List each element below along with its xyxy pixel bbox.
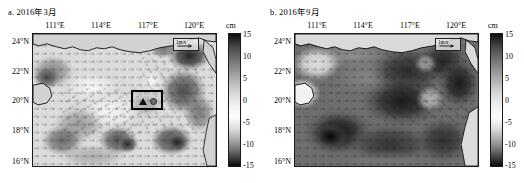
cbar-tick-n10-b: -10	[505, 140, 516, 149]
panel-a-colorbar-gradient	[228, 33, 241, 167]
panel-a-colorbar-unit: cm	[226, 21, 236, 30]
panel-b-map-area: 1m/s	[294, 33, 479, 167]
lon-tick-label-114e: 114°E	[91, 21, 111, 30]
lat-tick-label-18n-b: 18°N	[274, 126, 291, 135]
panel-a-lat-axis-labels: 24°N 22°N 20°N 18°N 16°N	[0, 33, 31, 167]
panel-b-title: b. 2016年9月	[270, 5, 320, 17]
panel-b-colorbar-unit: cm	[488, 21, 498, 30]
panel-b-colorbar-gradient	[490, 33, 503, 167]
vector-scale-arrow-icon-b	[439, 44, 457, 48]
lon-tick-label-120e: 120°E	[184, 21, 204, 30]
cbar-tick-10-b: 10	[505, 52, 513, 61]
cbar-tick-10: 10	[243, 52, 251, 61]
panel-b-lon-axis-labels: 111°E 114°E 117°E 120°E	[294, 21, 479, 33]
site-circle-marker-icon	[150, 98, 157, 105]
lat-tick-label-20n-b: 20°N	[274, 96, 291, 105]
panel-a-vector-scale-legend: 1m/s	[173, 38, 199, 51]
lat-tick-label-20n: 20°N	[12, 96, 29, 105]
lon-tick-label-111e-b: 111°E	[307, 21, 327, 30]
panel-a-ssha-field	[33, 34, 216, 166]
cbar-tick-15-b: 15	[505, 30, 513, 39]
panel-a-colorbar	[228, 33, 241, 167]
panel-b-ssha-field	[295, 34, 478, 166]
cbar-tick-n5-b: -5	[505, 118, 512, 127]
lat-tick-label-24n-b: 24°N	[274, 37, 291, 46]
lon-tick-label-117e-b: 117°E	[400, 21, 420, 30]
figure-container: a. 2016年3月 111°E 114°E 117°E 120°E 24°N …	[0, 0, 524, 183]
lat-tick-label-16n-b: 16°N	[274, 157, 291, 166]
panel-a-title: a. 2016年3月	[8, 5, 57, 17]
lon-tick-label-114e-b: 114°E	[353, 21, 373, 30]
cbar-tick-n15: -15	[243, 161, 254, 170]
lat-tick-label-22n: 22°N	[12, 67, 29, 76]
vector-scale-arrow-icon	[177, 44, 195, 48]
cbar-tick-5-b: 5	[505, 74, 509, 83]
cbar-tick-0-b: 0	[505, 96, 509, 105]
panel-b: b. 2016年9月 111°E 114°E 117°E 120°E 24°N …	[262, 0, 524, 183]
cbar-tick-0: 0	[243, 96, 247, 105]
panel-b-colorbar	[490, 33, 503, 167]
study-site-box	[131, 90, 163, 110]
cbar-tick-n5: -5	[243, 118, 250, 127]
lon-tick-label-111e: 111°E	[45, 21, 65, 30]
cbar-tick-n10: -10	[243, 140, 254, 149]
lat-tick-label-22n-b: 22°N	[274, 67, 291, 76]
lat-tick-label-16n: 16°N	[12, 157, 29, 166]
panel-b-lat-axis-labels: 24°N 22°N 20°N 18°N 16°N	[262, 33, 293, 167]
lon-tick-label-117e: 117°E	[138, 21, 158, 30]
panel-b-colorbar-ticks: 15 10 5 0 -5 -10 -15	[505, 33, 524, 167]
cbar-tick-n15-b: -15	[505, 161, 516, 170]
lat-tick-label-18n: 18°N	[12, 126, 29, 135]
site-triangle-marker-icon	[139, 98, 147, 105]
panel-a-lon-axis-labels: 111°E 114°E 117°E 120°E	[32, 21, 217, 33]
lat-tick-label-24n: 24°N	[12, 37, 29, 46]
panel-a-map-area: 1m/s	[32, 33, 217, 167]
panel-a: a. 2016年3月 111°E 114°E 117°E 120°E 24°N …	[0, 0, 262, 183]
panel-b-vector-scale-legend: 1m/s	[435, 38, 461, 51]
cbar-tick-15: 15	[243, 30, 251, 39]
cbar-tick-5: 5	[243, 74, 247, 83]
lon-tick-label-120e-b: 120°E	[446, 21, 466, 30]
